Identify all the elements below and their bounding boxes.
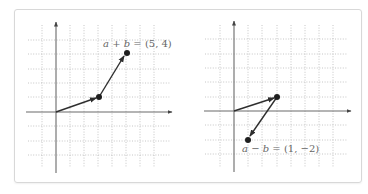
point-a-plus-b xyxy=(124,50,130,56)
point-a xyxy=(96,94,102,100)
vector-minus-b-arrow xyxy=(250,97,277,136)
sum-label: a + b = (5, 4) xyxy=(103,38,172,49)
vector-b-arrow xyxy=(99,56,124,97)
vector-a-arrow xyxy=(56,98,96,112)
difference-label: a − b = (1, −2) xyxy=(242,143,319,154)
vector-diagrams: a + b = (5, 4) a − b = (1, −2) xyxy=(0,0,368,194)
diagram-vector-sum: a + b = (5, 4) xyxy=(26,22,172,173)
diagram-vector-difference: a − b = (1, −2) xyxy=(204,21,351,172)
point-a xyxy=(274,94,280,100)
